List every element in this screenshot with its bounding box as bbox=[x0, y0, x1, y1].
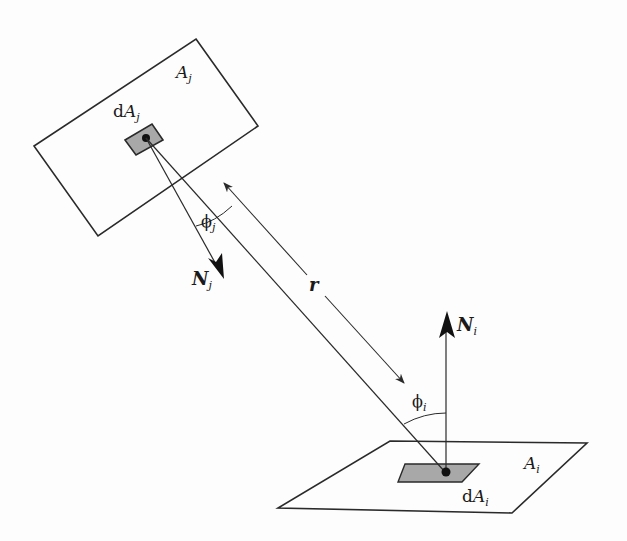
label-ni: Ni bbox=[457, 316, 477, 334]
label-ai: Ai bbox=[524, 455, 540, 472]
label-aj: Aj bbox=[176, 64, 192, 81]
distance-arrow-lower bbox=[325, 296, 404, 383]
distance-arrow-upper bbox=[224, 183, 307, 275]
label-daj: dAj bbox=[113, 103, 140, 120]
label-dai: dAi bbox=[462, 488, 489, 505]
normal-ni-arrowhead bbox=[439, 311, 455, 338]
angle-arc-phii bbox=[404, 413, 446, 424]
label-phii: ϕi bbox=[412, 394, 426, 410]
connecting-line bbox=[146, 138, 445, 472]
view-factor-diagram: Aj dAj ϕj Nj r Ni ϕi Ai dAi bbox=[0, 0, 627, 541]
normal-nj-shaft bbox=[146, 138, 218, 268]
label-phij: ϕj bbox=[201, 214, 215, 230]
label-nj: Nj bbox=[192, 270, 212, 288]
point-dai bbox=[442, 468, 451, 477]
label-r: r bbox=[309, 276, 318, 294]
patch-dai bbox=[398, 464, 479, 482]
